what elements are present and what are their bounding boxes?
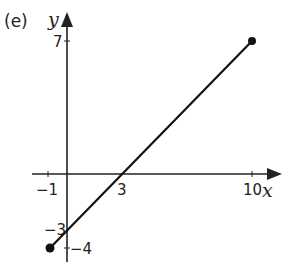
panel-label: (e) (4, 11, 28, 31)
data-line (50, 41, 252, 248)
x-tick-label-3: 3 (117, 181, 127, 199)
y-tick-label-7: 7 (53, 33, 63, 51)
x-tick-label-10: 10 (243, 181, 262, 199)
y-tick-label-neg4: −4 (70, 240, 92, 258)
x-tick-label-neg1: −1 (36, 181, 58, 199)
y-axis-arrow-icon (61, 12, 73, 27)
x-axis-label: x (262, 179, 273, 201)
y-axis-label: y (47, 8, 59, 30)
line-graph: (e) y x −1 3 10 7 −3 −4 (0, 0, 289, 271)
endpoint-start (46, 244, 55, 253)
endpoint-end (248, 37, 256, 45)
